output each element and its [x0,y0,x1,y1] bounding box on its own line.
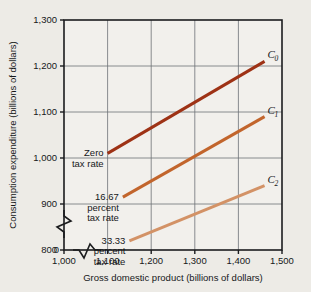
annotation-line: tax rate [94,256,126,267]
chart-figure: 8009001,0001,1001,2001,300 1,0001,1001,2… [0,0,311,292]
x-tick-label: 1,300 [183,255,207,266]
curve-label-subscript: 0 [275,54,279,63]
y-tick-label: 1,100 [33,106,57,117]
y-tick-label: 1,300 [33,14,57,25]
annotation-line: Zero [84,147,104,158]
y-tick-label: 1,000 [33,152,57,163]
annotation-line: tax rate [87,212,119,223]
consumption-expenditure-chart: 8009001,0001,1001,2001,300 1,0001,1001,2… [0,0,311,292]
x-tick-label: 1,400 [227,255,251,266]
x-tick-label: 1,200 [139,255,163,266]
annotation-line: percent [94,245,126,256]
curve-label-subscript: 2 [275,179,279,188]
annotation-line: percent [87,202,119,213]
curve-label-subscript: 1 [275,110,279,119]
y-tick-label: 1,200 [33,60,57,71]
annotation-line: 33.33 [102,235,126,246]
annotation-line: tax rate [72,158,104,169]
y-tick-label: 900 [41,198,57,209]
y-axis-origin-label: 0 [54,244,59,255]
x-axis-title: Gross domestic product (billions of doll… [83,272,263,283]
y-axis-title: Consumption expenditure (billions of dol… [7,41,18,228]
annotation-line: 16.67 [95,191,119,202]
x-tick-label: 1,000 [52,255,76,266]
x-tick-label: 1,500 [270,255,294,266]
